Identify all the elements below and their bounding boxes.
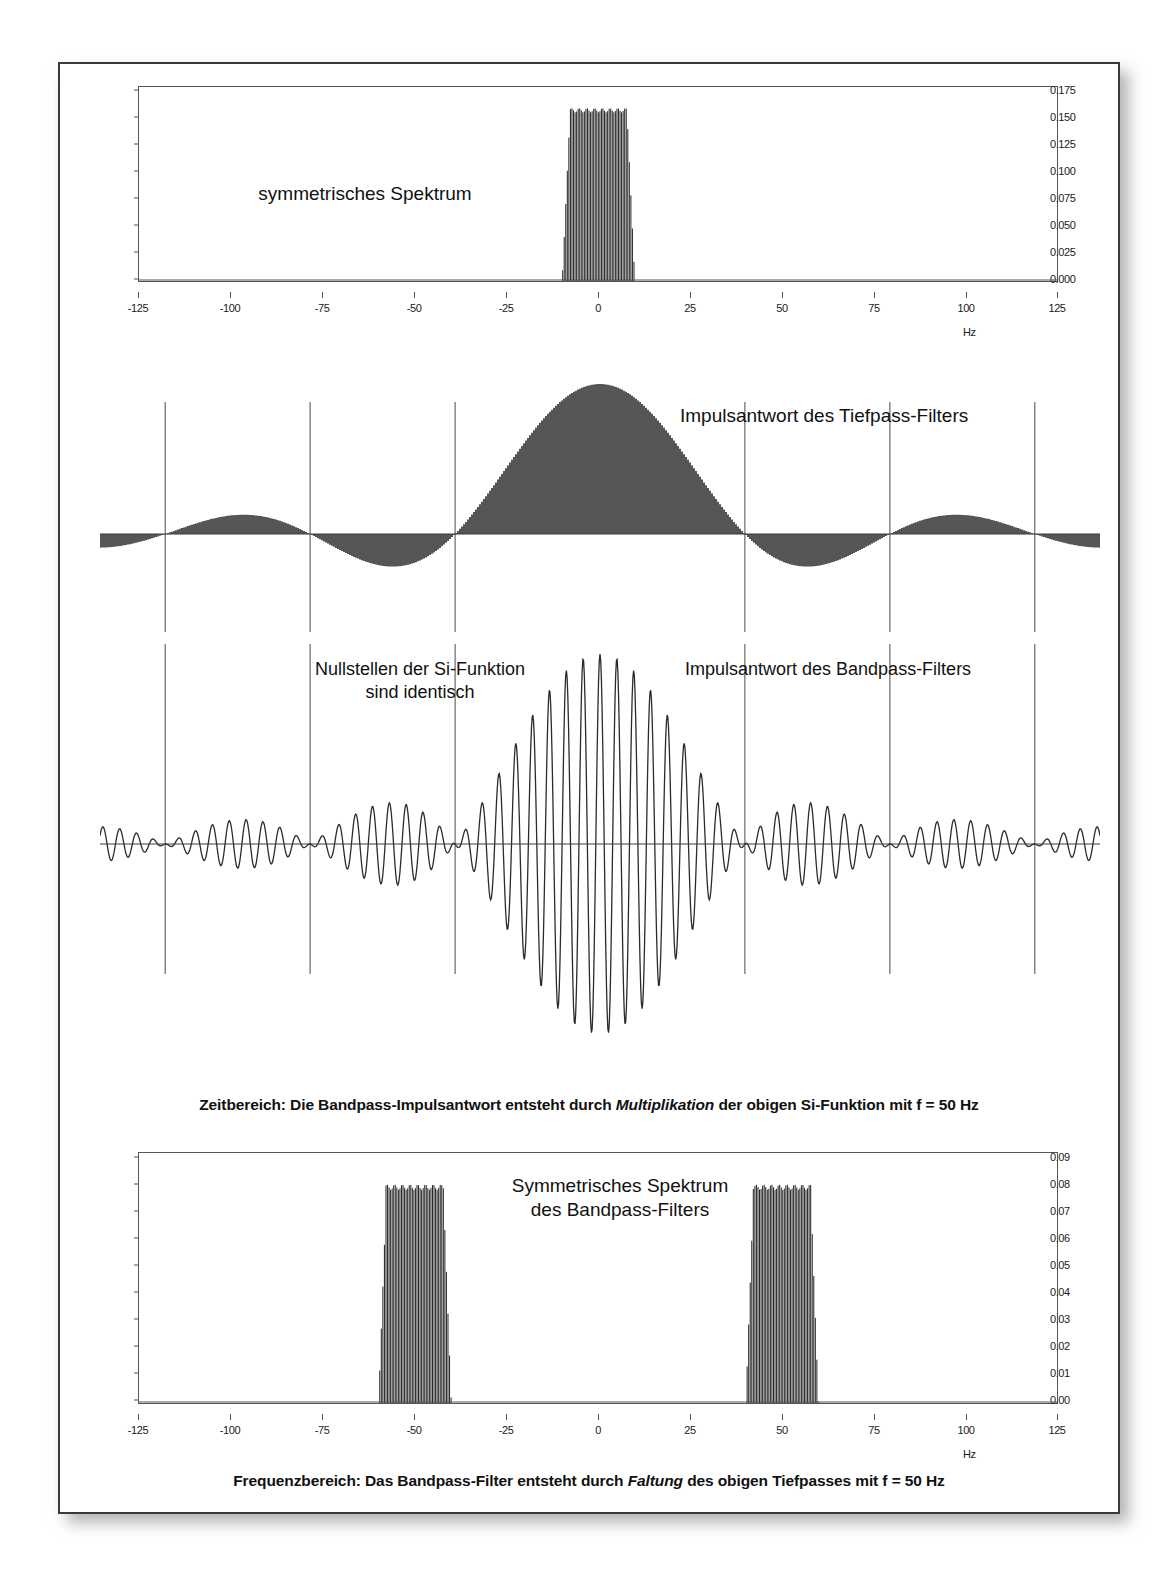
xtick-mark — [782, 292, 783, 298]
xtick-label: 125 — [1048, 1424, 1065, 1436]
xtick-label: 100 — [957, 302, 974, 314]
bandpass-impulse-caption: Zeitbereich: Die Bandpass-Impulsantwort … — [60, 1096, 1118, 1114]
caption-post: des obigen Tiefpasses mit f = 50 Hz — [683, 1472, 945, 1489]
xtick-mark — [230, 292, 231, 298]
bandpass-impulse-annotation-right: Impulsantwort des Bandpass-Filters — [685, 658, 1105, 681]
xtick-label: -75 — [315, 302, 330, 314]
lowpass-spectrum-unit-label: Hz — [963, 326, 975, 338]
xtick-mark — [598, 292, 599, 298]
xtick-mark — [414, 292, 415, 298]
xtick-label: -125 — [128, 1424, 148, 1436]
bandpass-spectrum-unit-label: Hz — [963, 1448, 975, 1460]
bandpass-impulse-annotation-left: Nullstellen der Si-Funktion sind identis… — [245, 658, 595, 703]
ytick-label: 0.07 — [1050, 1205, 1118, 1217]
xtick-label: 0 — [595, 302, 601, 314]
ytick-label: 0.000 — [1050, 273, 1118, 285]
caption-pre: Frequenzbereich: Das Bandpass-Filter ent… — [233, 1472, 627, 1489]
xtick-mark — [966, 292, 967, 298]
xtick-label: -125 — [128, 302, 148, 314]
caption-emphasis: Faltung — [628, 1472, 683, 1489]
xtick-mark — [414, 1414, 415, 1420]
xtick-mark — [138, 1414, 139, 1420]
ytick-label: 0.100 — [1050, 165, 1118, 177]
xtick-mark — [506, 292, 507, 298]
xtick-label: 75 — [868, 302, 879, 314]
caption-post: der obigen Si-Funktion mit f = 50 Hz — [714, 1096, 979, 1113]
ytick-label: 0.025 — [1050, 246, 1118, 258]
ytick-label: 0.150 — [1050, 111, 1118, 123]
xtick-label: 50 — [776, 1424, 787, 1436]
ytick-label: 0.05 — [1050, 1259, 1118, 1271]
xtick-mark — [230, 1414, 231, 1420]
xtick-mark — [138, 292, 139, 298]
xtick-label: 25 — [684, 1424, 695, 1436]
bandpass-impulse-plot — [100, 644, 1100, 1084]
xtick-label: 125 — [1048, 302, 1065, 314]
ytick-label: 0.00 — [1050, 1394, 1118, 1406]
panel-bandpass-spectrum: 0.09 0.08 0.07 0.06 0.05 0.04 0.03 0.02 … — [60, 1134, 1118, 1474]
ytick-label: 0.075 — [1050, 192, 1118, 204]
panel-lowpass-impulse-response: Impulsantwort des Tiefpass-Filters — [60, 374, 1118, 634]
ytick-label: 0.01 — [1050, 1367, 1118, 1379]
xtick-mark — [1057, 292, 1058, 298]
panel-bandpass-impulse-response: Nullstellen der Si-Funktion sind identis… — [60, 644, 1118, 1094]
xtick-label: 50 — [776, 302, 787, 314]
xtick-label: 100 — [957, 1424, 974, 1436]
xtick-label: -100 — [220, 1424, 240, 1436]
xtick-mark — [690, 1414, 691, 1420]
ytick-label: 0.06 — [1050, 1232, 1118, 1244]
xtick-mark — [874, 292, 875, 298]
xtick-label: -50 — [407, 1424, 422, 1436]
ytick-label: 0.04 — [1050, 1286, 1118, 1298]
bandpass-spectrum-caption: Frequenzbereich: Das Bandpass-Filter ent… — [60, 1472, 1118, 1490]
caption-emphasis: Multiplikation — [616, 1096, 714, 1113]
xtick-label: 0 — [595, 1424, 601, 1436]
xtick-mark — [1057, 1414, 1058, 1420]
ytick-label: 0.08 — [1050, 1178, 1118, 1190]
xtick-label: -75 — [315, 1424, 330, 1436]
ytick-label: 0.050 — [1050, 219, 1118, 231]
xtick-mark — [322, 292, 323, 298]
xtick-label: 25 — [684, 302, 695, 314]
xtick-label: -100 — [220, 302, 240, 314]
ytick-label: 0.02 — [1050, 1340, 1118, 1352]
xtick-label: 75 — [868, 1424, 879, 1436]
xtick-label: -25 — [499, 302, 514, 314]
ytick-label: 0.175 — [1050, 84, 1118, 96]
ytick-label: 0.03 — [1050, 1313, 1118, 1325]
xtick-mark — [598, 1414, 599, 1420]
xtick-mark — [506, 1414, 507, 1420]
xtick-label: -50 — [407, 302, 422, 314]
bandpass-spectrum-annotation: Symmetrisches Spektrum des Bandpass-Filt… — [440, 1174, 800, 1222]
figure-frame: 0.175 0.150 0.125 0.100 0.075 0.050 0.02… — [58, 62, 1120, 1514]
xtick-label: -25 — [499, 1424, 514, 1436]
ytick-label: 0.125 — [1050, 138, 1118, 150]
xtick-mark — [690, 292, 691, 298]
lowpass-spectrum-annotation: symmetrisches Spektrum — [200, 182, 530, 206]
panel-lowpass-spectrum: 0.175 0.150 0.125 0.100 0.075 0.050 0.02… — [60, 64, 1118, 364]
lowpass-impulse-annotation: Impulsantwort des Tiefpass-Filters — [680, 404, 1100, 428]
ytick-label: 0.09 — [1050, 1151, 1118, 1163]
caption-pre: Zeitbereich: Die Bandpass-Impulsantwort … — [199, 1096, 616, 1113]
xtick-mark — [782, 1414, 783, 1420]
xtick-mark — [322, 1414, 323, 1420]
xtick-mark — [874, 1414, 875, 1420]
xtick-mark — [966, 1414, 967, 1420]
